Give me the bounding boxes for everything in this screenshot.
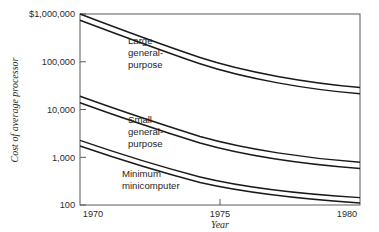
chart-figure: $1,000,000 100,000 10,000 1,000 100 1970… (0, 0, 379, 232)
y-tick-label-100000: 100,000 (42, 57, 75, 67)
annotation-small-general-purpose-line-3: purpose (128, 138, 163, 149)
annotation-large-general-purpose-line-2: general- (128, 47, 163, 58)
x-tick-label-1980: 1980 (337, 209, 357, 219)
processor-cost-line-chart: $1,000,000 100,000 10,000 1,000 100 1970… (0, 0, 379, 232)
y-axis-title: Cost of average processor (9, 57, 20, 162)
x-tick-label-1970: 1970 (83, 209, 103, 219)
y-tick-label-10000: 10,000 (47, 105, 75, 115)
chart-background (0, 0, 379, 232)
y-tick-label-1000000: $1,000,000 (29, 9, 75, 19)
annotation-small-general-purpose-line-2: general- (128, 126, 163, 137)
annotation-small-general-purpose-line-1: Small (128, 114, 152, 125)
y-tick-label-1000: 1,000 (52, 153, 75, 163)
y-tick-label-100: 100 (60, 200, 75, 210)
annotation-large-general-purpose-line-3: purpose (128, 59, 163, 70)
annotation-large-general-purpose-line-1: Large (128, 35, 153, 46)
x-tick-label-1975: 1975 (210, 209, 230, 219)
annotation-minimum-minicomputer-line-1: Minimum (122, 168, 161, 179)
annotation-minimum-minicomputer-line-2: minicomputer (122, 180, 180, 191)
x-axis-title: Year (211, 219, 229, 230)
